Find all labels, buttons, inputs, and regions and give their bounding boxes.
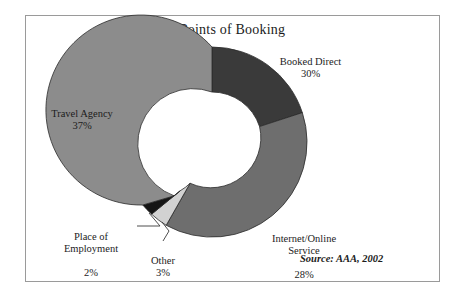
slice-label-other: Other 3% xyxy=(133,243,193,291)
slice-label-internet-line1: Internet/Online xyxy=(272,233,336,244)
slice-label-other-name: Other xyxy=(151,255,175,266)
slice-label-internet-value: 28% xyxy=(243,269,365,281)
slice-label-place-value: 2% xyxy=(45,267,137,279)
slice-label-place-line1: Place of xyxy=(74,231,108,242)
slice-label-travel-agency: Travel Agency 37% xyxy=(28,96,136,144)
slice-label-travel-agency-value: 37% xyxy=(28,120,136,132)
chart-figure: Points of Booking Booked Direct 30% Trav… xyxy=(0,0,465,299)
slice-label-travel-agency-name: Travel Agency xyxy=(51,108,113,119)
slice-label-place-line2: Employment xyxy=(45,243,137,255)
slice-label-booked-direct-value: 30% xyxy=(248,68,373,80)
source-note: Source: AAA, 2002 xyxy=(300,253,430,264)
slice-label-place-of-employment: Place of Employment 2% xyxy=(45,219,137,291)
slice-internet-online-service[interactable] xyxy=(166,113,307,237)
slice-label-booked-direct-name: Booked Direct xyxy=(280,56,342,67)
slice-label-booked-direct: Booked Direct 30% xyxy=(248,44,373,92)
slice-label-other-value: 3% xyxy=(133,267,193,279)
